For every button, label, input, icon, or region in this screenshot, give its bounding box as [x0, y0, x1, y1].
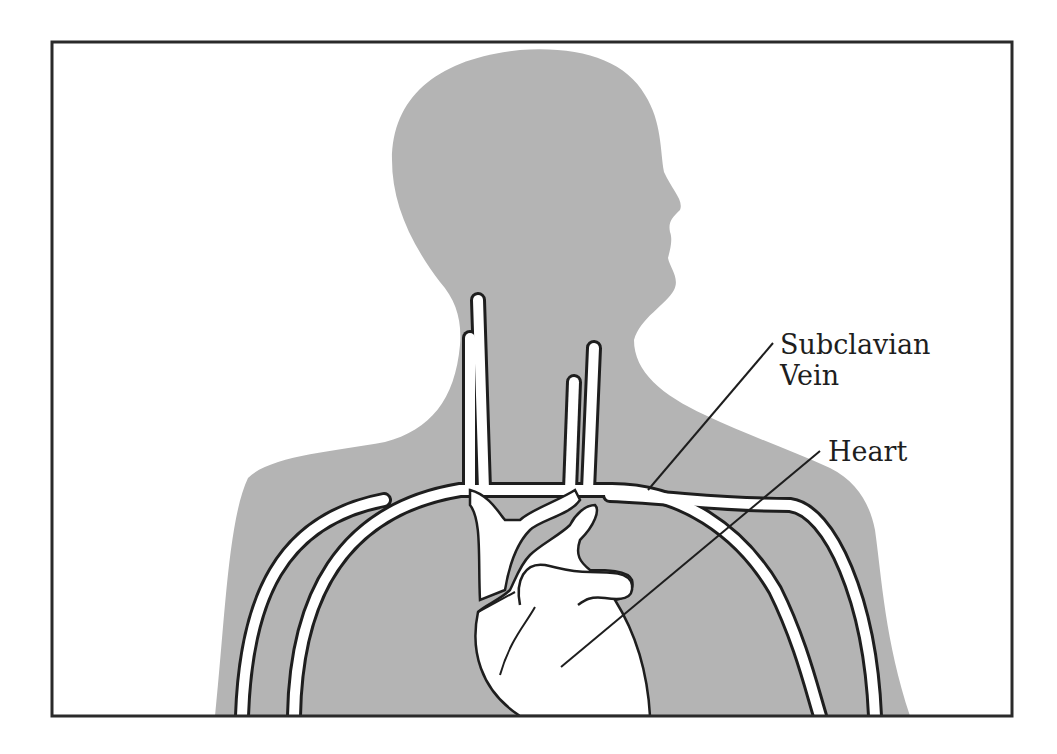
anatomy-diagram: Subclavian Vein Heart	[0, 0, 1057, 754]
anatomy-figure: Subclavian Vein Heart	[0, 0, 1057, 754]
label-heart: Heart	[828, 436, 908, 467]
label-subclavian-line1: Subclavian	[780, 329, 930, 360]
label-subclavian-line2: Vein	[779, 360, 839, 391]
